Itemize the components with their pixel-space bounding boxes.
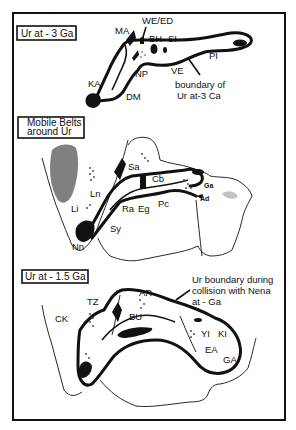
label-ga: Ga: [204, 182, 213, 189]
panel-title: Ur at - 3 Ga: [21, 28, 74, 39]
ur-supercontinent-figure: Ur at - 3 Ga MA WE/ED BH SI PI NP VE KA …: [0, 0, 296, 430]
label-si: SI: [168, 33, 177, 44]
craton-si: [163, 47, 167, 53]
label-we-ed: WE/ED: [142, 15, 173, 26]
label-li: Li: [71, 203, 78, 214]
label-ar: AR: [139, 287, 152, 298]
label-ga: GA: [223, 354, 237, 365]
label-ma: MA: [115, 25, 130, 36]
label-eg: Eg: [138, 203, 150, 214]
label-ra: Ra: [122, 203, 135, 214]
label-ck: CK: [55, 313, 69, 324]
label-ea: EA: [205, 344, 218, 355]
annotation-boundary-2: collision with Nena: [192, 285, 271, 296]
label-np: NP: [135, 68, 148, 79]
label-sy: Sy: [110, 223, 121, 234]
annotation-boundary-2: Ur at-3 Ca: [177, 90, 222, 101]
craton-cb: [140, 175, 146, 189]
annotation-boundary-1: Ur boundary during: [192, 274, 273, 285]
label-ka: KA: [88, 78, 101, 89]
label-cb: Cb: [152, 173, 164, 184]
craton-yi: [194, 318, 202, 322]
panel-title: Ur at - 1.5 Ga: [25, 271, 86, 282]
label-dm: DM: [126, 91, 141, 102]
annotation-boundary-1: boundary of: [175, 79, 226, 90]
annotation-boundary-3: at - Ga: [192, 296, 222, 307]
label-ln: Ln: [90, 188, 101, 199]
panel-title-line2: around Ur: [27, 126, 72, 137]
label-ve: VE: [171, 65, 184, 76]
label-bu: BU: [129, 311, 142, 322]
label-tz: TZ: [87, 296, 99, 307]
figure-frame: [13, 13, 285, 420]
craton-ga: [192, 169, 204, 175]
craton-bh: [151, 44, 158, 54]
label-pi: PI: [209, 50, 218, 61]
label-ad: Ad: [200, 195, 209, 202]
label-nn: Nn: [72, 241, 84, 252]
label-pc: Pc: [158, 198, 169, 209]
label-bh: BH: [149, 33, 162, 44]
craton-pi: [233, 40, 247, 47]
label-yi: YI: [201, 328, 210, 339]
label-ki: KI: [218, 328, 227, 339]
label-sa: Sa: [128, 161, 140, 172]
